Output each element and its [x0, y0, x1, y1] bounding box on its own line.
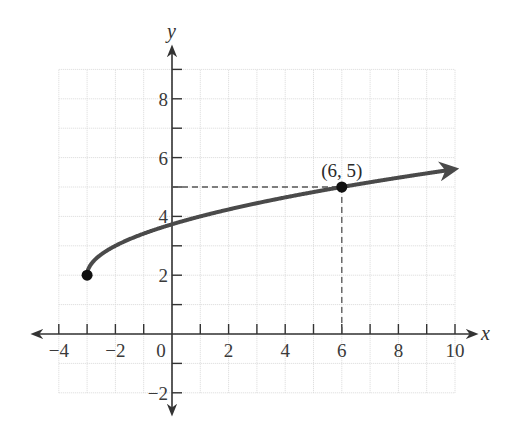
- x-tick-label: 0: [156, 340, 166, 361]
- x-tick-label: 8: [394, 340, 404, 361]
- y-tick-label: 6: [159, 148, 169, 169]
- x-axis-label: x: [480, 322, 490, 344]
- data-point: [336, 182, 347, 193]
- x-tick-label: 2: [224, 340, 234, 361]
- x-tick-label: −4: [49, 340, 70, 361]
- x-tick-label: 6: [337, 340, 347, 361]
- y-tick-label: 8: [159, 89, 169, 110]
- x-tick-label: 10: [446, 340, 465, 361]
- data-point: [82, 270, 93, 281]
- point-label: (6, 5): [321, 160, 362, 182]
- y-tick-label: −2: [148, 383, 168, 404]
- highlighted-points: [82, 182, 348, 281]
- function-graph: −4−20246810−22468 (6, 5) x y: [0, 0, 528, 436]
- x-tick-label: −2: [105, 340, 125, 361]
- x-tick-label: 4: [280, 340, 290, 361]
- axes: [33, 47, 476, 414]
- annotations: (6, 5): [321, 160, 362, 182]
- y-tick-label: 2: [159, 265, 169, 286]
- y-axis-label: y: [165, 20, 176, 43]
